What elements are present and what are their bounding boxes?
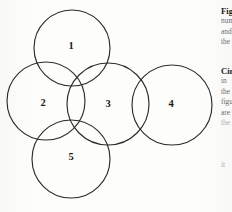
overlapping-circles-diagram: 1 2 3 4 5 — [0, 0, 232, 212]
diagram-background — [0, 0, 232, 212]
circle-label-2: 2 — [40, 97, 45, 108]
circle-label-1: 1 — [68, 40, 73, 51]
circle-label-4: 4 — [168, 98, 174, 109]
circle-label-5: 5 — [68, 151, 73, 162]
figure-container: 1 2 3 4 5 FigurenumberandtheCirclesinthe… — [0, 0, 232, 212]
circle-label-3: 3 — [105, 98, 110, 109]
